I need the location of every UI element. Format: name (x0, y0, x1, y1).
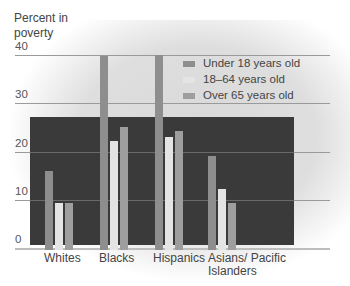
legend-label-under18: Under 18 years old (203, 57, 300, 69)
bar-asians-18-64 (218, 189, 226, 250)
y-tick-20: 20 (15, 137, 28, 149)
bar-hispanics-18-64 (165, 137, 173, 250)
legend-label-over65: Over 65 years old (203, 89, 294, 101)
x-label-hispanics: Hispanics (153, 252, 205, 265)
bar-whites-under18 (45, 171, 53, 250)
gridline-40 (15, 55, 330, 56)
y-tick-10: 10 (15, 185, 28, 197)
y-tick-30: 30 (15, 88, 28, 100)
bar-whites-18-64 (55, 203, 63, 250)
bar-blacks-over65 (120, 127, 128, 250)
legend-swatch-under18 (183, 61, 195, 67)
bar-blacks-under18 (100, 56, 108, 250)
bar-asians-under18 (208, 156, 216, 250)
bar-hispanics-over65 (175, 131, 183, 250)
y-axis-title: Percent in poverty (14, 11, 68, 41)
x-label-asians: Asians/ Pacific Islanders (208, 252, 286, 278)
legend-swatch-over65 (183, 93, 195, 99)
y-tick-0: 0 (15, 233, 21, 245)
bar-whites-over65 (65, 203, 73, 250)
y-axis-title-line1: Percent in (14, 11, 68, 26)
y-tick-40: 40 (15, 40, 28, 52)
bar-hispanics-under18 (155, 55, 163, 250)
bar-asians-over65 (228, 203, 236, 250)
x-label-blacks: Blacks (99, 252, 134, 265)
gridline-30 (15, 103, 330, 104)
bar-blacks-18-64 (110, 141, 118, 250)
y-axis-title-line2: poverty (14, 26, 68, 41)
x-label-asians-line2: Islanders (208, 265, 286, 278)
legend-swatch-18-64 (183, 77, 195, 83)
x-label-whites: Whites (44, 252, 81, 265)
legend-label-18-64: 18–64 years old (203, 73, 285, 85)
